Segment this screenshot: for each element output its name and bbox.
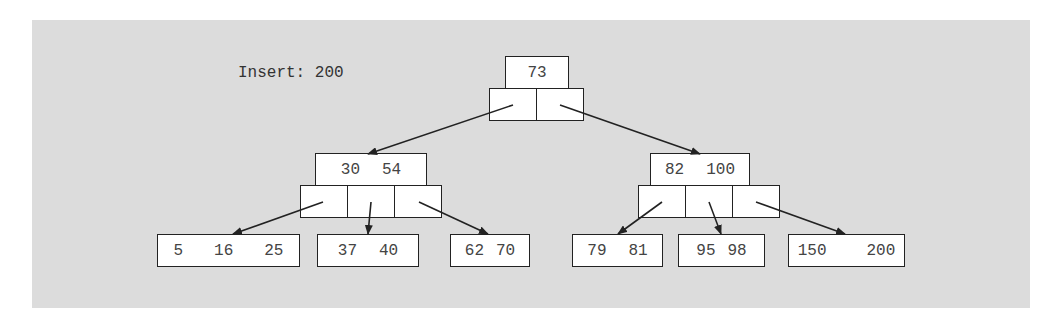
edge-arrow <box>233 202 323 234</box>
edge-arrow <box>368 202 371 234</box>
edge-arrow <box>756 202 845 234</box>
edge-arrow <box>560 105 700 154</box>
edge-arrow <box>368 105 513 154</box>
edge-arrow <box>618 202 662 234</box>
edge-arrow <box>419 202 488 234</box>
edge-arrow <box>709 202 721 234</box>
tree-edges <box>0 0 1061 321</box>
